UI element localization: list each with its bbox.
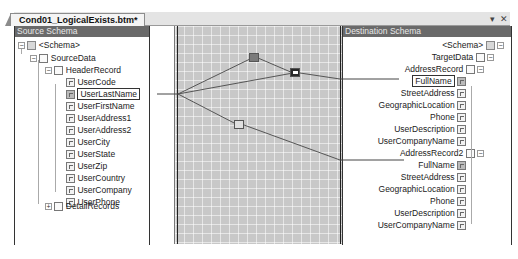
collapse-icon[interactable]: − [487,54,494,61]
tree-connector [38,68,39,204]
node-label: <Schema> [39,40,80,50]
dest-field-fullname-2[interactable]: FullName [418,159,466,171]
dest-field-geographiclocation-2[interactable]: GeographicLocation [379,183,466,195]
node-label: UserAddress1 [77,113,131,123]
node-label: SourceData [51,53,96,63]
folder-icon [27,41,36,50]
field-icon [457,89,466,98]
field-icon [66,78,75,87]
node-label: UserDescription [394,208,454,218]
mapping-grid[interactable] [174,26,344,244]
node-label: UserCountry [77,173,125,183]
source-node-headerrecord[interactable]: − HeaderRecord [45,64,121,76]
field-icon [457,125,466,134]
source-field-usercode[interactable]: UserCode [66,76,116,88]
node-label: UserZip [77,161,107,171]
source-node-sourcedata[interactable]: − SourceData [30,52,96,64]
dest-field-geographiclocation[interactable]: GeographicLocation [379,99,466,111]
dest-node-schema[interactable]: <Schema> − [442,39,504,51]
node-label: TargetData [432,52,474,62]
source-field-useraddress2[interactable]: UserAddress2 [66,124,131,136]
node-label: HeaderRecord [66,65,121,75]
logical-existence-functoid[interactable] [249,53,259,62]
collapse-icon[interactable]: − [477,150,484,157]
source-field-usercountry[interactable]: UserCountry [66,172,125,184]
node-label: DetailRecords [66,201,119,211]
field-icon [66,150,75,159]
dest-field-userdescription[interactable]: UserDescription [394,123,466,135]
dropdown-icon[interactable]: ▾ [490,14,495,24]
node-label: AddressRecord [405,64,464,74]
node-label: GeographicLocation [379,184,455,194]
close-icon[interactable]: ✕ [500,14,508,24]
dest-field-streetaddress-2[interactable]: StreetAddress [401,171,466,183]
collapse-icon[interactable]: − [18,42,25,49]
node-label: GeographicLocation [379,100,455,110]
field-icon [457,185,466,194]
node-label: UserState [77,149,115,159]
node-label: <Schema> [442,40,483,50]
dest-field-streetaddress[interactable]: StreetAddress [401,87,466,99]
source-field-useraddress1[interactable]: UserAddress1 [66,112,131,124]
record-icon [54,202,63,211]
node-label: StreetAddress [401,172,455,182]
node-label: UserDescription [394,124,454,134]
node-label: UserCompanyName [378,136,455,146]
linked-field-icon [66,90,75,99]
field-icon [457,101,466,110]
node-label: UserCompany [77,185,131,195]
field-icon [66,102,75,111]
expand-icon[interactable]: + [45,203,52,210]
folder-icon [486,41,495,50]
collapse-icon[interactable]: − [497,42,504,49]
source-field-usercompany[interactable]: UserCompany [66,184,132,196]
field-icon [457,113,466,122]
node-label: UserCity [77,137,110,147]
field-icon [66,186,75,195]
node-label: UserAddress2 [77,125,131,135]
linked-field-icon [457,161,466,170]
document-tab[interactable]: Cond01_LogicalExists.btm* [10,13,145,26]
collapse-icon[interactable]: − [45,67,52,74]
source-schema-header: Source Schema [15,26,149,37]
node-label: UserCode [77,77,115,87]
collapse-icon[interactable]: − [477,66,484,73]
node-label: UserFirstName [77,101,134,111]
grid-left-border [177,26,178,244]
arrow-icon [293,71,298,74]
value-mapping-functoid[interactable] [290,68,300,77]
source-field-userlastname[interactable]: UserLastName [66,88,140,100]
source-node-detailrecords-row[interactable]: + DetailRecords [45,200,119,212]
field-icon [457,209,466,218]
source-field-userzip[interactable]: UserZip [66,160,107,172]
dest-node-addressrecord[interactable]: AddressRecord − [405,63,484,75]
destination-schema-header: Destination Schema [343,26,511,37]
source-field-userstate[interactable]: UserState [66,148,115,160]
logical-existence-functoid-2[interactable] [234,120,244,129]
tree-connector [471,86,472,224]
tree-connector [55,84,56,192]
node-label: Phone [430,112,455,122]
node-label: UserCompanyName [378,220,455,230]
node-label: FullName [418,160,454,170]
source-node-schema[interactable]: − <Schema> [18,39,80,51]
field-icon [66,126,75,135]
dest-node-targetdata[interactable]: TargetData − [432,51,494,63]
collapse-icon[interactable]: − [30,55,37,62]
dest-field-usercompanyname-2[interactable]: UserCompanyName [378,219,466,231]
dest-field-phone[interactable]: Phone [430,111,466,123]
grid-right-border [340,26,341,244]
field-icon [66,162,75,171]
dest-field-userdescription-2[interactable]: UserDescription [394,207,466,219]
source-field-userfirstname[interactable]: UserFirstName [66,100,135,112]
source-field-usercity[interactable]: UserCity [66,136,110,148]
field-icon [457,137,466,146]
field-icon [457,173,466,182]
dest-field-phone-2[interactable]: Phone [430,195,466,207]
field-icon [457,221,466,230]
node-label: FullName [412,75,454,87]
record-icon [466,65,475,74]
dest-field-usercompanyname[interactable]: UserCompanyName [378,135,466,147]
dest-field-fullname[interactable]: FullName [412,75,466,87]
field-icon [66,138,75,147]
